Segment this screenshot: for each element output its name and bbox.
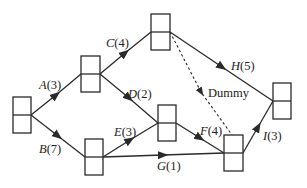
edge-G [103, 153, 224, 157]
label-D: D(2) [127, 87, 152, 101]
node-end [273, 83, 291, 119]
label-A: A(3) [38, 78, 61, 92]
label-G: G(1) [157, 159, 181, 173]
edge-I [243, 101, 273, 153]
node-after-F-G [224, 135, 243, 171]
node-start [13, 97, 31, 133]
label-B: B(7) [39, 142, 61, 156]
edge-dummy [170, 32, 232, 135]
node-after-B [85, 139, 103, 175]
label-C: C(4) [106, 36, 129, 50]
label-dummy: Dummy [208, 86, 250, 100]
label-I: I(3) [262, 129, 282, 143]
node-after-C [151, 14, 170, 50]
node-after-D-E [158, 105, 176, 141]
label-H: H(5) [230, 59, 255, 73]
node-after-A [81, 56, 100, 92]
label-F: F(4) [199, 124, 222, 138]
label-E: E(3) [113, 125, 136, 139]
activity-network-diagram: A(3) B(7) C(4) D(2) E(3) F(4) G(1) H(5) … [0, 0, 307, 188]
